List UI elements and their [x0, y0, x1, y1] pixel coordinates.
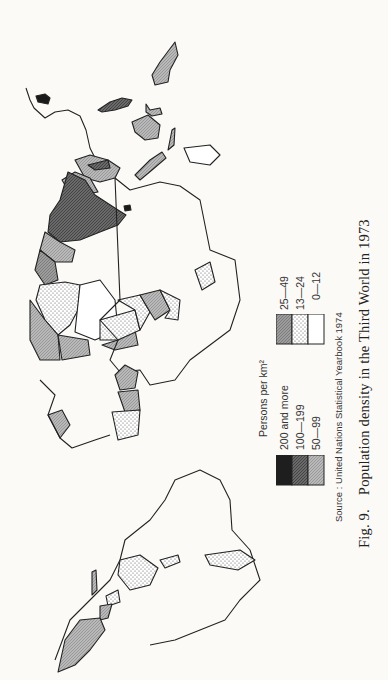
legend-title: Persons per km²: [257, 360, 269, 437]
region-nigeria: [195, 262, 215, 290]
legend-label-13-24: 13—24: [294, 276, 306, 310]
region-caribbean: [92, 570, 97, 595]
region-central-america: [100, 604, 112, 620]
source-note: Source : United Nations Statistical Year…: [333, 312, 344, 522]
legend-label-50-99: 50—99: [310, 416, 322, 450]
region-colombia: [118, 555, 158, 590]
swatch-50-99: [308, 455, 324, 485]
swatch-25-49: [276, 314, 292, 344]
legend-swatches-right: [276, 314, 336, 346]
region-malaysia: [168, 128, 175, 150]
figure-caption: Fig. 9.Population density in the Third W…: [356, 219, 373, 548]
swatch-0-12: [308, 314, 324, 344]
region-panama: [106, 590, 120, 606]
region-brazil-coast: [205, 550, 255, 570]
region-senegal: [48, 410, 70, 438]
swatch-13-24: [292, 314, 308, 344]
swatch-100-199: [292, 455, 308, 485]
legend-label-100-199: 100—199: [294, 404, 306, 450]
region-turkey: [58, 335, 90, 360]
region-africa-outline: [100, 178, 240, 385]
legend-label-25-49: 25—49: [278, 276, 290, 310]
legend-label-0-12: 0—12: [310, 272, 322, 300]
region-west-africa-2: [118, 390, 140, 412]
legend-label-200-and-more: 200 and more: [278, 385, 290, 450]
region-west-africa-3: [112, 410, 140, 440]
region-sumatra: [135, 152, 166, 180]
figure-number: Fig. 9.: [356, 509, 372, 548]
region-india: [48, 172, 126, 242]
region-taiwan-korea: [36, 94, 50, 104]
legend-swatches-left: [276, 455, 336, 487]
region-philippines: [152, 42, 178, 85]
swatch-200-and-more: [276, 455, 292, 485]
region-sulawesi: [146, 104, 162, 116]
figure-title: Population density in the Third World in…: [356, 219, 372, 495]
region-sri-lanka: [124, 205, 131, 211]
region-borneo: [132, 115, 160, 140]
region-venezuela: [160, 555, 180, 568]
region-madagascar: [184, 145, 220, 165]
region-java: [98, 98, 132, 112]
region-mexico: [58, 618, 105, 672]
region-west-africa-1: [115, 365, 138, 390]
